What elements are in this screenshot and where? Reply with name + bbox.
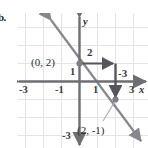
x-axis-label: x [139, 85, 144, 96]
problem-number: b. [0, 11, 6, 23]
x-tick--3: -3 [19, 85, 28, 96]
coordinate-plane: x y -3 -1 1 3 1 -3 (0, 2) (2, -1) 2 -3 [17, 13, 148, 148]
label-point-second: (2, -1) [77, 125, 105, 136]
y-tick-1: 1 [70, 67, 75, 78]
x-tick--1: -1 [55, 85, 64, 96]
label-run: 2 [87, 47, 93, 58]
point-second [112, 96, 118, 102]
label-point-y-intercept: (0, 2) [31, 57, 55, 68]
y-tick--3: -3 [62, 131, 71, 142]
x-tick-1: 1 [93, 85, 98, 96]
y-axis-label: y [83, 17, 88, 28]
figure-root: b. [0, 0, 148, 148]
label-rise: -3 [118, 68, 127, 79]
point-y-intercept [76, 60, 82, 66]
leader-line [103, 103, 114, 121]
x-tick-3: 3 [129, 85, 134, 96]
